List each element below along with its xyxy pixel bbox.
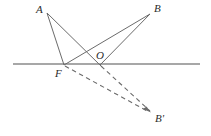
- point-label-b: B: [154, 3, 161, 14]
- point-label-b-prime: B': [155, 113, 164, 124]
- geometry-canvas: [0, 0, 211, 136]
- segment-o-bprime: [101, 66, 150, 111]
- arrowhead-bprime-icon: [143, 107, 151, 113]
- point-label-o: O: [96, 50, 104, 61]
- point-label-a: A: [36, 4, 43, 15]
- geometry-figure: A B F O B': [0, 0, 211, 136]
- segment-a-o: [47, 13, 101, 66]
- segment-f-bprime: [65, 66, 149, 112]
- point-label-f: F: [55, 68, 62, 79]
